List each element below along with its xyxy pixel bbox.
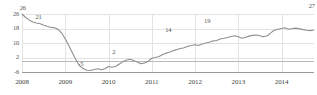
x-tick-label-2009: 2009: [58, 79, 72, 86]
x-tick-label-2011: 2011: [145, 79, 158, 86]
line-chart: 2618102-6 2621-52141927 2008200920102011…: [0, 0, 317, 95]
annotation-27: 27: [309, 3, 315, 10]
annotation-19: 19: [204, 18, 210, 25]
x-tick-label-2013: 2013: [231, 79, 245, 86]
y-tick-label-2: 2: [16, 54, 19, 61]
x-tick-label-2014: 2014: [275, 79, 289, 86]
annotation-26: 26: [20, 5, 26, 12]
x-tick-label-2012: 2012: [188, 79, 202, 86]
annotation-2: 2: [112, 49, 115, 56]
annotation--5: -5: [78, 61, 83, 68]
series-path: [22, 14, 314, 71]
y-tick-label-26: 26: [13, 11, 19, 18]
y-tick-label-18: 18: [13, 25, 19, 32]
y-tick-label--6: -6: [14, 69, 19, 76]
annotation-21: 21: [35, 14, 41, 21]
annotation-14: 14: [165, 27, 171, 34]
y-tick-label-10: 10: [13, 40, 19, 47]
x-tick-label-2008: 2008: [15, 79, 29, 86]
x-tick-label-2010: 2010: [102, 79, 116, 86]
